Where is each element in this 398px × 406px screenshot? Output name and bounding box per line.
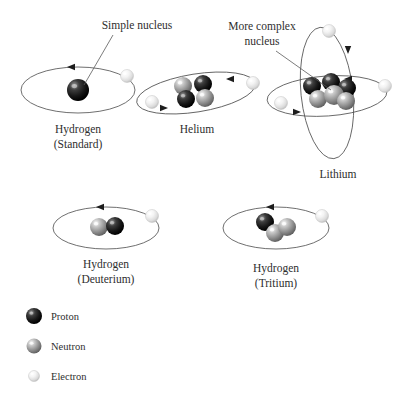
legend-label-proton: Proton: [51, 311, 80, 322]
neutron-sphere-legend: [27, 339, 42, 354]
electron-highlight: [325, 27, 328, 29]
neutron-highlight: [178, 81, 183, 84]
diagram-canvas: Simple nucleusMore complexnucleus Hydrog…: [0, 0, 398, 406]
neutron-body: [196, 89, 214, 107]
proton-body: [106, 217, 124, 235]
electrons-hydrogen-standard: [121, 70, 134, 83]
electron-body: [121, 70, 134, 83]
callout-line: nucleus: [244, 35, 280, 47]
electron-sphere-lithium-1: [379, 80, 392, 93]
electron-highlight: [148, 212, 151, 214]
neutron-highlight: [200, 93, 205, 96]
legend: ProtonNeutronElectron: [26, 308, 87, 382]
proton-highlight: [342, 83, 347, 86]
electron-highlight: [148, 98, 151, 100]
neutron-sphere-helium-3: [196, 89, 214, 107]
electron-body: [323, 25, 336, 38]
electron-highlight: [249, 79, 252, 81]
neutron-highlight: [30, 342, 34, 345]
legend-label-neutron: Neutron: [51, 341, 86, 352]
proton-body: [177, 90, 195, 108]
atom-label-line: Helium: [180, 123, 215, 135]
callout-text-simple-nucleus: Simple nucleus: [102, 19, 173, 32]
neutron-highlight: [313, 94, 318, 97]
electrons-hydrogen-tritium: [316, 210, 329, 223]
electron-sphere-helium-1: [146, 96, 159, 109]
callout-line: More complex: [228, 20, 296, 33]
neutron-body: [27, 339, 42, 354]
neutron-body: [90, 218, 108, 236]
proton-highlight: [72, 84, 78, 88]
electrons-hydrogen-deuterium: [146, 210, 159, 223]
proton-highlight: [260, 217, 265, 220]
electron-sphere-hydrogen-deuterium-0: [146, 210, 159, 223]
proton-sphere-legend: [26, 308, 42, 324]
legend-item-neutron: Neutron: [27, 339, 87, 354]
proton-highlight: [198, 79, 203, 82]
electron-highlight: [31, 373, 34, 375]
atom-label-line: (Standard): [54, 138, 103, 151]
electron-sphere-lithium-2: [275, 97, 288, 110]
atomic-structure-diagram: Simple nucleusMore complexnucleus Hydrog…: [0, 0, 398, 406]
proton-highlight: [110, 221, 115, 224]
proton-sphere-hydrogen-deuterium-1: [106, 217, 124, 235]
electron-highlight: [277, 99, 280, 101]
atom-label-line: Hydrogen: [253, 262, 299, 275]
legend-item-proton: Proton: [26, 308, 80, 324]
proton-highlight: [326, 77, 331, 80]
neutron-body: [278, 218, 296, 236]
atom-label-line: (Tritium): [255, 277, 298, 290]
callout-line: Simple nucleus: [102, 19, 173, 32]
electron-body: [247, 77, 260, 90]
atom-label-line: (Deuterium): [78, 273, 135, 286]
atom-label-line: Hydrogen: [55, 123, 101, 136]
electron-body: [379, 80, 392, 93]
legend-item-electron: Electron: [29, 371, 88, 383]
neutron-sphere-hydrogen-deuterium-0: [90, 218, 108, 236]
proton-body: [26, 308, 42, 324]
electron-body: [146, 210, 159, 223]
atom-label-helium: Helium: [180, 123, 215, 135]
neutron-highlight: [341, 96, 346, 99]
electron-sphere-hydrogen-standard-0: [121, 70, 134, 83]
electron-sphere-helium-0: [247, 77, 260, 90]
atom-label-line: Lithium: [319, 168, 356, 180]
proton-sphere-helium-2: [177, 90, 195, 108]
neutron-highlight: [94, 222, 99, 225]
electron-body: [146, 96, 159, 109]
neutron-sphere-lithium-5: [337, 92, 355, 110]
atom-label-lithium: Lithium: [319, 168, 356, 180]
electron-highlight: [123, 72, 126, 74]
electron-body: [316, 210, 329, 223]
proton-highlight: [307, 81, 312, 84]
electron-highlight: [381, 82, 384, 84]
proton-highlight: [181, 94, 186, 97]
neutron-body: [337, 92, 355, 110]
proton-highlight: [29, 312, 33, 315]
electron-sphere-legend: [29, 371, 40, 382]
electron-body: [29, 371, 40, 382]
electron-sphere-lithium-0: [323, 25, 336, 38]
electron-body: [275, 97, 288, 110]
electron-highlight: [318, 212, 321, 214]
legend-label-electron: Electron: [51, 371, 87, 382]
neutron-highlight: [282, 222, 287, 225]
atom-label-line: Hydrogen: [83, 258, 129, 271]
electron-sphere-hydrogen-tritium-0: [316, 210, 329, 223]
neutron-highlight: [270, 228, 275, 231]
neutron-sphere-hydrogen-tritium-2: [278, 218, 296, 236]
